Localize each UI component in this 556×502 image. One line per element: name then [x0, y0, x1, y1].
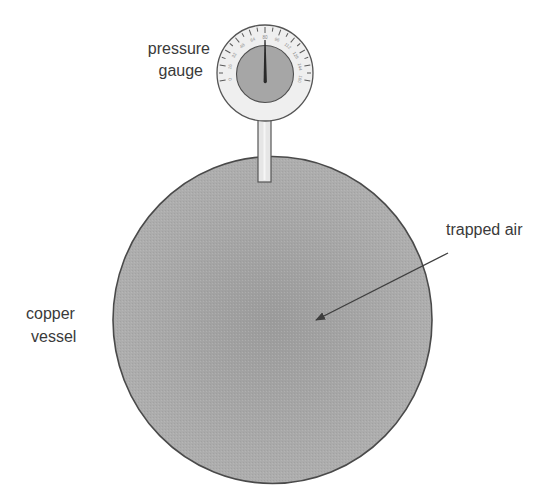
pressure-gauge-label-line2: gauge [159, 62, 204, 79]
svg-text:80: 80 [262, 35, 268, 40]
connecting-tube [258, 118, 271, 182]
copper-vessel-label: copper vessel [26, 305, 76, 345]
copper-vessel-label-line1: copper [26, 305, 76, 322]
pressure-gauge-label-line1: pressure [148, 40, 210, 57]
copper-vessel-label-line2: vessel [31, 328, 76, 345]
copper-vessel-diagram: 0 16 32 48 64 80 96 112 128 144 160 pres… [0, 0, 556, 502]
copper-vessel [113, 157, 432, 484]
pressure-gauge-label: pressure gauge [148, 40, 210, 79]
trapped-air-label: trapped air [446, 221, 523, 238]
pressure-gauge: 0 16 32 48 64 80 96 112 128 144 160 [217, 25, 313, 121]
